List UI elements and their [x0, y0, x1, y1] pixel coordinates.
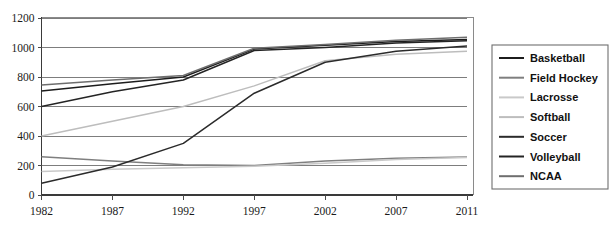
x-tick-label: 2002 — [314, 205, 337, 217]
x-tick-label: 1997 — [243, 205, 266, 217]
line-chart: 020040060080010001200 198219871992199720… — [0, 0, 612, 239]
y-axis-labels: 020040060080010001200 — [12, 12, 35, 201]
series-line-field-hockey — [42, 157, 468, 166]
legend-label-lacrosse: Lacrosse — [530, 91, 578, 103]
series-group — [42, 37, 468, 183]
y-tick-label: 600 — [17, 101, 35, 113]
y-tick-label: 800 — [17, 71, 35, 83]
legend-label-basketball: Basketball — [530, 52, 585, 64]
x-axis-labels: 1982198719921997200220072011 — [30, 205, 479, 217]
y-tick-label: 200 — [17, 160, 35, 172]
x-tick-label: 1987 — [101, 205, 124, 217]
x-tick-label: 1992 — [172, 205, 195, 217]
x-tick-label: 2007 — [385, 205, 408, 217]
legend-label-field-hockey: Field Hockey — [530, 72, 599, 84]
legend-label-ncaa: NCAA — [530, 170, 562, 182]
x-tick-label: 2011 — [456, 205, 479, 217]
x-tick-label: 1982 — [30, 205, 53, 217]
series-line-soccer — [42, 46, 468, 183]
series-line-ncaa — [42, 37, 468, 85]
y-tick-label: 1000 — [12, 42, 35, 54]
chart-canvas: 020040060080010001200 198219871992199720… — [0, 0, 612, 239]
legend-label-volleyball: Volleyball — [530, 151, 581, 163]
y-tick-label: 400 — [17, 130, 35, 142]
y-tick-label: 0 — [29, 189, 35, 201]
y-tick-label: 1200 — [12, 12, 35, 24]
legend-label-soccer: Soccer — [530, 131, 567, 143]
legend-label-softball: Softball — [530, 111, 570, 123]
x-axis-ticks — [42, 195, 468, 200]
legend: BasketballField HockeyLacrosseSoftballSo… — [492, 45, 608, 189]
